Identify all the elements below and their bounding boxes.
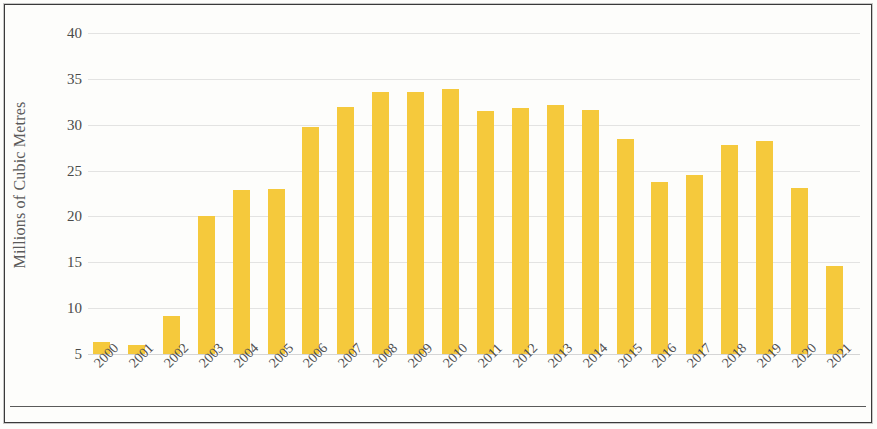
bar <box>512 108 529 354</box>
y-axis-tick-label: 15 <box>42 254 82 271</box>
bar <box>477 111 494 354</box>
y-axis-title: Millions of Cubic Metres <box>4 0 34 370</box>
y-axis-tick-label: 10 <box>42 300 82 317</box>
bar <box>826 266 843 354</box>
y-axis-title-text: Millions of Cubic Metres <box>10 101 28 268</box>
bar <box>337 107 354 354</box>
bar <box>651 182 668 354</box>
bar <box>372 92 389 354</box>
bar <box>233 190 250 354</box>
chart-page: Millions of Cubic Metres 403530252015105… <box>0 0 877 429</box>
y-axis-tick-label: 5 <box>42 346 82 363</box>
y-axis-tick-label: 30 <box>42 116 82 133</box>
bar <box>442 89 459 354</box>
bar <box>302 127 319 354</box>
bar <box>268 189 285 354</box>
y-axis-tick-label: 20 <box>42 208 82 225</box>
bar-series <box>88 20 860 354</box>
footer-rule <box>10 406 866 407</box>
y-axis-tick-label: 35 <box>42 70 82 87</box>
bar-chart: Millions of Cubic Metres 403530252015105… <box>0 0 877 429</box>
bar <box>686 175 703 354</box>
x-axis-tick-labels: 2000200120022003200420052006200720082009… <box>88 356 860 416</box>
bar <box>617 139 634 354</box>
bar <box>407 92 424 354</box>
bar <box>756 141 773 354</box>
bar <box>198 216 215 354</box>
y-axis-tick-label: 25 <box>42 162 82 179</box>
y-axis-tick-labels: 403530252015105 <box>38 20 82 366</box>
bar <box>582 110 599 354</box>
bar <box>791 188 808 354</box>
y-axis-tick-label: 40 <box>42 25 82 42</box>
bar <box>721 145 738 354</box>
bar <box>547 105 564 354</box>
